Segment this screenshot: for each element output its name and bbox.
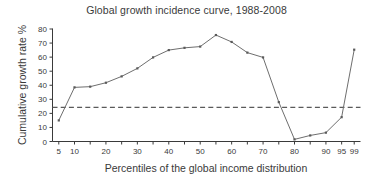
x-tick-label: 95 [337, 147, 346, 156]
y-tick-label: 50 [38, 67, 47, 76]
y-tick-label: 40 [38, 81, 47, 90]
data-point-marker [353, 49, 355, 51]
x-tick-label: 70 [259, 147, 268, 156]
x-tick-label: 40 [164, 147, 173, 156]
data-point-markers [58, 34, 356, 141]
x-tick-label: 60 [227, 147, 236, 156]
y-tick-label: 20 [38, 109, 47, 118]
y-axis-tick-labels: 01020304050607080 [38, 25, 47, 147]
chart-figure: Global growth incidence curve, 1988-2008… [0, 0, 373, 186]
y-tick-label: 70 [38, 39, 47, 48]
x-tick-label: 90 [321, 147, 330, 156]
data-point-marker [121, 75, 123, 77]
data-point-marker [199, 45, 201, 47]
x-tick-label: 5 [57, 147, 62, 156]
x-tick-label: 20 [101, 147, 110, 156]
data-point-marker [58, 119, 60, 121]
x-axis-title: Percentiles of the global income distrib… [105, 162, 308, 174]
y-axis-title: Cumulative growth rate % [16, 25, 28, 145]
data-point-marker [341, 116, 343, 118]
x-tick-label: 99 [350, 147, 359, 156]
data-point-marker [73, 86, 75, 88]
data-point-marker [136, 67, 138, 69]
data-point-marker [105, 82, 107, 84]
chart-svg: 01020304050607080 5102030405060708090959… [0, 0, 373, 186]
data-point-marker [89, 86, 91, 88]
data-point-marker [293, 138, 295, 140]
plot-area: 01020304050607080 5102030405060708090959… [0, 0, 373, 186]
data-point-marker [152, 56, 154, 58]
x-tick-label: 50 [196, 147, 205, 156]
y-tick-label: 60 [38, 53, 47, 62]
y-tick-label: 80 [38, 25, 47, 34]
x-tick-label: 10 [70, 147, 79, 156]
data-point-marker [246, 52, 248, 54]
data-point-marker [168, 49, 170, 51]
x-axis-tick-labels: 51020304050607080909599 [57, 147, 360, 156]
x-tick-label: 30 [133, 147, 142, 156]
data-point-marker [183, 47, 185, 49]
data-point-marker [262, 56, 264, 58]
y-tick-label: 10 [38, 123, 47, 132]
data-point-marker [278, 101, 280, 103]
x-tick-label: 80 [290, 147, 299, 156]
data-point-marker [309, 134, 311, 136]
data-series-line [59, 35, 354, 139]
data-point-marker [215, 34, 217, 36]
y-tick-label: 0 [43, 138, 48, 147]
y-tick-label: 30 [38, 95, 47, 104]
data-point-marker [325, 132, 327, 134]
data-point-marker [231, 41, 233, 43]
